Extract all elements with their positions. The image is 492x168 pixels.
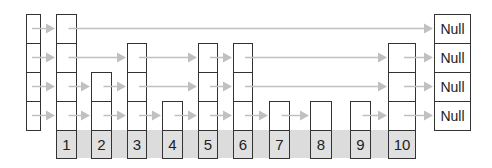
arrowhead-icon bbox=[117, 53, 126, 63]
header-level-cell bbox=[26, 72, 41, 102]
arrowhead-icon bbox=[188, 82, 197, 92]
arrowhead-icon bbox=[223, 111, 232, 121]
node-level-cell bbox=[127, 43, 147, 73]
node-level-cell bbox=[350, 101, 371, 131]
null-cell: Null bbox=[434, 14, 471, 44]
arrowhead-icon bbox=[424, 53, 433, 63]
arrowhead-icon bbox=[152, 111, 161, 121]
arrowhead-icon bbox=[223, 82, 232, 92]
node-level-cell bbox=[198, 101, 218, 131]
arrowhead-icon bbox=[424, 24, 433, 34]
header-level-cell bbox=[26, 43, 41, 73]
header-level-cell bbox=[26, 14, 41, 44]
node-key: 7 bbox=[269, 130, 290, 159]
null-cell: Null bbox=[434, 101, 471, 131]
node-level-cell bbox=[388, 101, 416, 131]
node-level-cell bbox=[198, 72, 218, 102]
arrowhead-icon bbox=[117, 111, 126, 121]
node-key: 8 bbox=[310, 130, 332, 159]
node-key: 4 bbox=[162, 130, 183, 159]
arrowhead-icon bbox=[46, 24, 55, 34]
header-level-cell bbox=[26, 101, 41, 131]
node-level-cell bbox=[91, 72, 112, 102]
node-level-cell bbox=[269, 101, 290, 131]
node-key: 5 bbox=[198, 130, 218, 159]
arrowhead-icon bbox=[378, 111, 387, 121]
arrowhead-icon bbox=[223, 53, 232, 63]
arrowhead-icon bbox=[46, 111, 55, 121]
null-cell: Null bbox=[434, 43, 471, 73]
arrowhead-icon bbox=[188, 53, 197, 63]
node-key: 9 bbox=[350, 130, 371, 159]
arrowhead-icon bbox=[378, 82, 387, 92]
arrowhead-icon bbox=[46, 53, 55, 63]
node-level-cell bbox=[198, 43, 218, 73]
node-key: 6 bbox=[233, 130, 253, 159]
arrowhead-icon bbox=[378, 53, 387, 63]
skip-list-diagram: 12345678910 NullNullNullNull bbox=[0, 0, 492, 168]
arrowhead-icon bbox=[117, 82, 126, 92]
node-key: 3 bbox=[127, 130, 147, 159]
arrowhead-icon bbox=[81, 111, 90, 121]
node-level-cell bbox=[56, 101, 77, 131]
node-level-cell bbox=[127, 72, 147, 102]
node-level-cell bbox=[388, 72, 416, 102]
arrowhead-icon bbox=[300, 111, 309, 121]
node-level-cell bbox=[310, 101, 332, 131]
node-level-cell bbox=[127, 101, 147, 131]
node-level-cell bbox=[162, 101, 183, 131]
arrowhead-icon bbox=[188, 111, 197, 121]
node-key: 1 bbox=[56, 130, 77, 159]
arrowhead-icon bbox=[424, 111, 433, 121]
node-key: 2 bbox=[91, 130, 112, 159]
node-level-cell bbox=[388, 43, 416, 73]
node-level-cell bbox=[56, 72, 77, 102]
node-level-cell bbox=[91, 101, 112, 131]
arrowhead-icon bbox=[424, 82, 433, 92]
node-level-cell bbox=[56, 14, 77, 44]
node-level-cell bbox=[56, 43, 77, 73]
arrowhead-icon bbox=[81, 82, 90, 92]
node-level-cell bbox=[233, 43, 253, 73]
node-level-cell bbox=[233, 72, 253, 102]
arrowhead-icon bbox=[46, 82, 55, 92]
node-key: 10 bbox=[388, 130, 416, 159]
arrowhead-icon bbox=[259, 111, 268, 121]
node-level-cell bbox=[233, 101, 253, 131]
null-cell: Null bbox=[434, 72, 471, 102]
